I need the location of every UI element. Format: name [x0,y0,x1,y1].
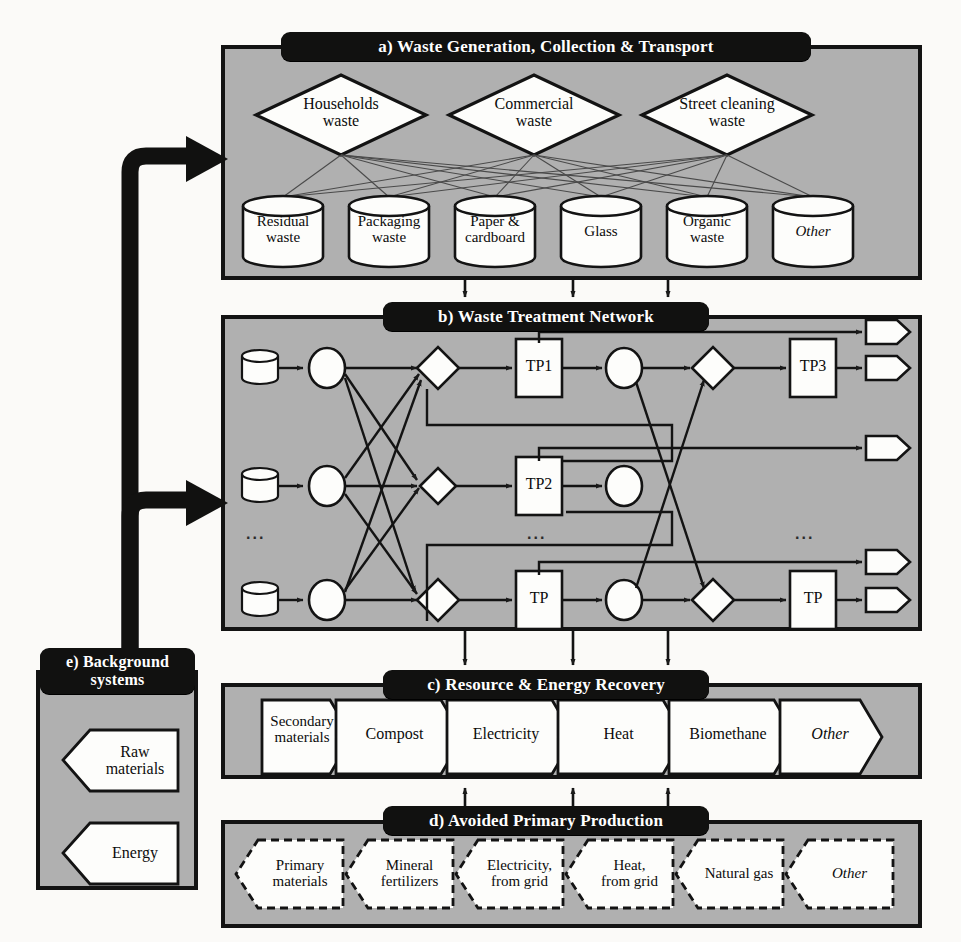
panel-c-title-ribbon: c) Resource & Energy Recovery [383,670,709,699]
panel-c-title: c) Resource & Energy Recovery [427,675,665,695]
cylinder [561,196,641,267]
cylinder [455,196,535,267]
avoided-chevron [346,840,453,908]
panel-b-treatment-plants-left [516,339,562,629]
avoided-chevron [566,840,673,908]
treatment-plant-box [516,339,562,397]
panel-b-to-c-arrows [465,629,668,665]
panel-b-title-ribbon: b) Waste Treatment Network [383,302,709,331]
avoided-chevron [676,840,783,908]
cylinder [243,196,323,267]
recovery-chevron [558,700,685,774]
panel-a-source-diamonds [256,75,812,155]
panel-b-title: b) Waste Treatment Network [438,307,654,327]
background-chevron [63,823,178,884]
panel-d-title-ribbon: d) Avoided Primary Production [383,806,709,835]
cylinder [242,582,278,616]
panel-c-output-chevrons [262,700,882,774]
recovery-chevron [780,700,882,774]
cylinder [349,196,429,267]
treatment-plant-box [790,571,836,629]
cylinder [667,196,747,267]
recovery-chevron [447,700,574,774]
panel-d-title: d) Avoided Primary Production [429,811,663,831]
recovery-chevron [336,700,463,774]
panel-e-title-line1: e) Background [66,653,169,671]
avoided-chevron [786,840,893,908]
cylinder [773,196,853,267]
panel-a-title: a) Waste Generation, Collection & Transp… [378,37,713,57]
transport-node [606,466,642,506]
ellipsis-left-column: ... [246,525,265,543]
panel-a-title-ribbon: a) Waste Generation, Collection & Transp… [281,32,811,61]
treatment-plant-box [516,457,562,515]
cylinder [242,468,278,502]
figure-canvas: a) Waste Generation, Collection & Transp… [0,0,961,942]
panel-e-title-line2: systems [91,671,145,689]
ellipsis-right-column: ... [795,525,814,543]
ellipsis-middle-column: ... [527,525,546,543]
recovery-chevron [669,700,796,774]
diagram-svg [0,0,961,942]
collection-node [309,466,345,506]
avoided-chevron [456,840,563,908]
background-systems-supply-arrow [130,136,228,690]
collection-node [309,348,345,388]
avoided-chevron [236,840,343,908]
treatment-plant-box [516,571,562,629]
background-chevron [63,730,178,791]
panel-e-title-ribbon: e) Background systems [40,648,195,694]
cylinder [242,350,278,384]
panel-a-to-b-arrows [465,278,668,297]
treatment-plant-box [790,339,836,397]
collection-node [309,580,345,620]
